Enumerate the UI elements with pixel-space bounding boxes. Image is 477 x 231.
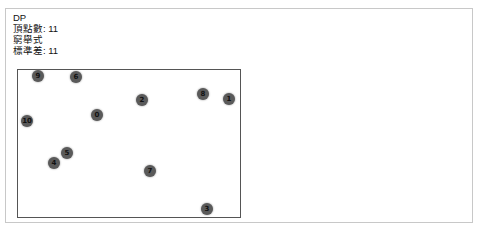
graph-node[interactable]: 0: [91, 109, 103, 121]
graph-node[interactable]: 1: [223, 93, 235, 105]
graph-node[interactable]: 6: [70, 71, 82, 83]
graph-node[interactable]: 9: [32, 70, 44, 82]
graph-node[interactable]: 5: [61, 147, 73, 159]
std-dev: 標準差: 11: [13, 45, 58, 56]
graph-node[interactable]: 7: [144, 165, 156, 177]
algorithm-title: DP: [13, 12, 58, 23]
graph-node[interactable]: 4: [48, 157, 60, 169]
graph-node[interactable]: 3: [201, 203, 213, 215]
vertex-count: 頂點數: 11: [13, 23, 58, 34]
graph-node[interactable]: 8: [197, 88, 209, 100]
info-block: DP 頂點數: 11 窮舉式 標準差: 11: [13, 12, 58, 56]
method-label: 窮舉式: [13, 34, 58, 45]
graph-node[interactable]: 10: [21, 115, 33, 127]
graph-node[interactable]: 2: [136, 94, 148, 106]
